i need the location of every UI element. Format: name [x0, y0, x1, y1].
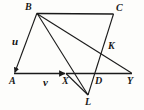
point-label-a: A [9, 76, 16, 86]
segment-b-c [37, 14, 114, 15]
vector-label-u: u [12, 36, 18, 47]
geometry-canvas [0, 0, 144, 110]
point-label-b: B [25, 2, 32, 12]
segment-b-y [38, 14, 132, 73]
point-label-y: Y [127, 76, 133, 86]
geometry-figure: B C A X D Y K L u v [0, 0, 144, 110]
point-label-d: D [95, 76, 102, 86]
point-label-l: L [85, 97, 91, 107]
point-label-k: K [108, 41, 115, 51]
segment-b-a [15, 13, 37, 73]
point-label-x: X [62, 76, 69, 86]
vector-label-v: v [43, 77, 48, 88]
point-label-c: C [116, 3, 123, 13]
